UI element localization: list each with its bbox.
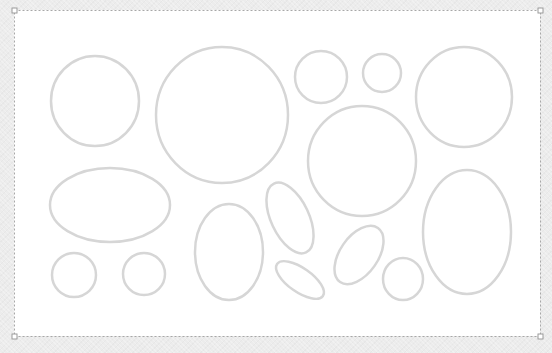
resize-handle-bottom-left[interactable] [12, 334, 17, 339]
resize-handle-top-left[interactable] [12, 8, 17, 13]
resize-handle-top-right[interactable] [538, 8, 543, 13]
canvas-svg [0, 0, 552, 353]
drawing-canvas [0, 0, 552, 353]
resize-handle-bottom-right[interactable] [538, 334, 543, 339]
